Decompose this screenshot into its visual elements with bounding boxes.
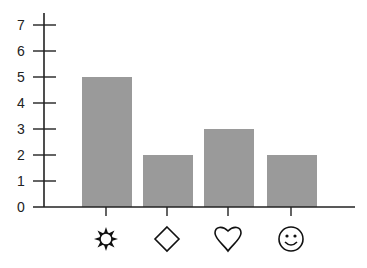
bar-smiley [267, 155, 317, 207]
y-tick-label: 6 [17, 43, 25, 59]
y-axis: 01234567 [17, 13, 56, 215]
bars [82, 77, 317, 207]
x-axis [33, 207, 355, 251]
sun-icon [94, 227, 118, 251]
bar-chart: 01234567 [0, 0, 367, 268]
diamond-icon [155, 227, 179, 251]
heart-icon [215, 227, 241, 251]
bar-diamond [143, 155, 193, 207]
y-tick-label: 3 [17, 121, 25, 137]
y-tick-label: 2 [17, 147, 25, 163]
y-tick-label: 0 [17, 199, 25, 215]
y-tick-label: 7 [17, 17, 25, 33]
bar-heart [204, 129, 254, 207]
smiley-icon [279, 227, 303, 251]
y-tick-label: 4 [17, 95, 25, 111]
bar-sun [82, 77, 132, 207]
y-tick-label: 1 [17, 173, 25, 189]
y-tick-label: 5 [17, 69, 25, 85]
